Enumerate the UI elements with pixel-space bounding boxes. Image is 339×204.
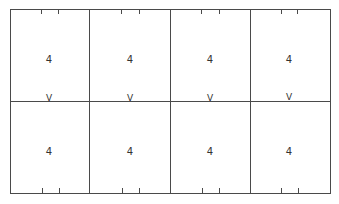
v-mark: V [127,94,133,103]
top-tick-mark [201,9,202,14]
top-tick-mark [219,9,220,14]
cell-label: 4 [207,55,213,65]
top-tick-mark [297,9,298,14]
cell-label: 4 [46,55,52,65]
top-tick-mark [41,9,42,14]
bottom-tick-mark [42,188,43,193]
top-tick-mark [58,9,59,14]
v-mark: V [286,93,292,102]
top-tick-mark [281,9,282,14]
row-divider [10,101,331,102]
bottom-tick-mark [139,188,140,193]
cell-label: 4 [286,147,292,157]
cell-label: 4 [127,55,133,65]
v-mark: V [207,94,213,103]
cell-label: 4 [127,147,133,157]
bottom-tick-mark [219,188,220,193]
bottom-tick-mark [298,188,299,193]
bottom-tick-mark [122,188,123,193]
top-tick-mark [139,9,140,14]
bottom-tick-mark [59,188,60,193]
cell-label: 4 [207,147,213,157]
cell-label: 4 [46,147,52,157]
top-tick-mark [121,9,122,14]
cell-label: 4 [286,55,292,65]
v-mark: V [46,94,52,103]
bottom-tick-mark [202,188,203,193]
bottom-tick-mark [281,188,282,193]
